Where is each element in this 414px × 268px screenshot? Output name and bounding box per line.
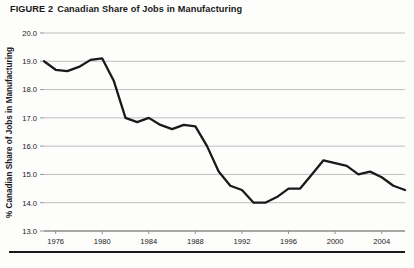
bottom-divider-rule [9,251,405,253]
y-axis-tick-label: 19.0 [22,57,37,66]
x-axis-tick-label: 2004 [373,237,390,245]
line-chart: 20.019.018.017.016.015.014.013.0 1976198… [0,22,414,244]
x-axis-tick-label: 2000 [327,237,344,245]
y-axis-tick-label: 18.0 [22,85,37,94]
figure-container: FIGURE 2Canadian Share of Jobs in Manufa… [0,0,414,268]
y-axis-tick-label: 13.0 [22,227,37,236]
y-axis-tick-label: 20.0 [22,29,37,38]
figure-caption: FIGURE 2Canadian Share of Jobs in Manufa… [10,4,242,14]
y-axis-tick-label: 16.0 [22,142,37,151]
figure-title: Canadian Share of Jobs in Manufacturing [57,4,242,14]
x-axis-tick-labels: 19761980198419881992199620002004 [47,231,390,244]
data-series-line [44,58,405,202]
y-axis-tick-label: 14.0 [22,199,37,208]
x-axis-tick-label: 1980 [94,237,111,245]
y-axis-title: % Canadian Share of Jobs in Manufacturin… [5,47,14,218]
x-axis-tick-label: 1976 [47,237,64,245]
y-axis-tick-label: 17.0 [22,114,37,123]
x-axis-tick-label: 1996 [280,237,297,245]
chart-plot-area: 20.019.018.017.016.015.014.013.0 1976198… [0,22,414,244]
y-axis-tick-labels: 20.019.018.017.016.015.014.013.0 [22,29,37,236]
x-axis-tick-label: 1984 [140,237,157,245]
figure-number: FIGURE 2 [10,4,53,14]
x-axis-tick-label: 1988 [187,237,204,245]
gridlines [40,33,405,231]
x-axis-tick-label: 1992 [234,237,251,245]
y-axis-tick-label: 15.0 [22,170,37,179]
